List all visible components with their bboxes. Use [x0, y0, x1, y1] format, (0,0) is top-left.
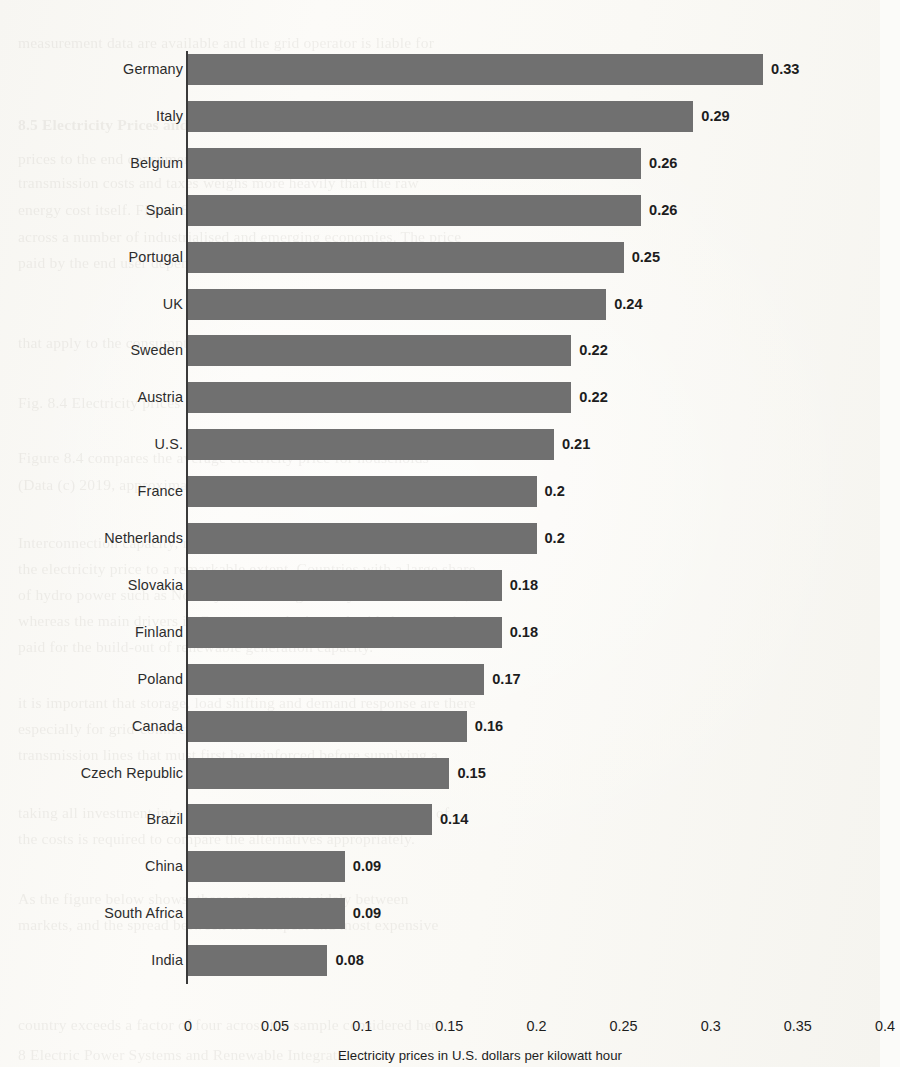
bar [188, 758, 449, 789]
category-label: South Africa [104, 898, 183, 929]
bar [188, 476, 537, 507]
bar-row: Czech Republic0.15 [40, 758, 900, 789]
x-tick-label: 0.25 [610, 1018, 638, 1034]
category-label: Italy [156, 101, 183, 132]
bar-value-label: 0.09 [353, 898, 381, 929]
category-label: Portugal [129, 242, 183, 273]
bar-row: South Africa0.09 [40, 898, 900, 929]
category-label: Netherlands [104, 523, 183, 554]
bar [188, 711, 467, 742]
y-axis-line [186, 51, 188, 984]
bar [188, 617, 502, 648]
bar-row: UK0.24 [40, 289, 900, 320]
bar-value-label: 0.16 [475, 711, 503, 742]
bar-value-label: 0.18 [510, 570, 538, 601]
bar [188, 851, 345, 882]
x-axis-title: Electricity prices in U.S. dollars per k… [40, 1048, 900, 1063]
category-label: U.S. [155, 429, 183, 460]
bar-value-label: 0.18 [510, 617, 538, 648]
x-tick-label: 0.4 [875, 1018, 895, 1034]
electricity-price-bar-chart: Germany0.33Italy0.29Belgium0.26Spain0.26… [40, 16, 840, 1051]
bar-row: Sweden0.22 [40, 335, 900, 366]
bar [188, 289, 606, 320]
bar-row: China0.09 [40, 851, 900, 882]
bar [188, 523, 537, 554]
category-label: Germany [123, 54, 183, 85]
bar-row: Austria0.22 [40, 382, 900, 413]
bar-value-label: 0.29 [701, 101, 729, 132]
bar-row: Poland0.17 [40, 664, 900, 695]
bar [188, 382, 571, 413]
category-label: France [138, 476, 183, 507]
bar-value-label: 0.15 [457, 758, 485, 789]
bar [188, 664, 484, 695]
category-label: Slovakia [128, 570, 183, 601]
bar-value-label: 0.33 [771, 54, 799, 85]
bar-value-label: 0.21 [562, 429, 590, 460]
bar-value-label: 0.24 [614, 289, 642, 320]
x-tick-label: 0.05 [261, 1018, 289, 1034]
bar [188, 195, 641, 226]
bar-row: Belgium0.26 [40, 148, 900, 179]
bar [188, 54, 763, 85]
bar-row: Portugal0.25 [40, 242, 900, 273]
category-label: Austria [138, 382, 184, 413]
category-label: China [145, 851, 183, 882]
bar-value-label: 0.26 [649, 195, 677, 226]
bar-value-label: 0.22 [579, 335, 607, 366]
bar [188, 898, 345, 929]
bar-value-label: 0.22 [579, 382, 607, 413]
x-tick-label: 0.1 [352, 1018, 372, 1034]
bar-row: Italy0.29 [40, 101, 900, 132]
bar [188, 335, 571, 366]
category-label: Finland [135, 617, 183, 648]
bar [188, 101, 693, 132]
category-label: UK [163, 289, 183, 320]
bar-row: Canada0.16 [40, 711, 900, 742]
bar-value-label: 0.14 [440, 804, 468, 835]
bar [188, 148, 641, 179]
plot-area: Germany0.33Italy0.29Belgium0.26Spain0.26… [40, 16, 900, 1067]
bar-value-label: 0.08 [335, 945, 363, 976]
category-label: Belgium [130, 148, 183, 179]
bar-row: Spain0.26 [40, 195, 900, 226]
x-tick-label: 0.3 [701, 1018, 721, 1034]
category-label: Spain [146, 195, 183, 226]
bar-value-label: 0.17 [492, 664, 520, 695]
bar-row: Brazil0.14 [40, 804, 900, 835]
bar-value-label: 0.25 [632, 242, 660, 273]
x-tick-label: 0.2 [526, 1018, 546, 1034]
bar-value-label: 0.2 [545, 476, 565, 507]
bar [188, 429, 554, 460]
bar-row: France0.2 [40, 476, 900, 507]
x-tick-label: 0.35 [784, 1018, 812, 1034]
bar-value-label: 0.26 [649, 148, 677, 179]
category-label: Czech Republic [81, 758, 183, 789]
category-label: Canada [132, 711, 183, 742]
bar-row: Germany0.33 [40, 54, 900, 85]
bar [188, 242, 624, 273]
bar-value-label: 0.09 [353, 851, 381, 882]
category-label: Brazil [146, 804, 183, 835]
bar-row: Slovakia0.18 [40, 570, 900, 601]
bar [188, 804, 432, 835]
bar-row: India0.08 [40, 945, 900, 976]
bar-row: Finland0.18 [40, 617, 900, 648]
category-label: India [151, 945, 183, 976]
bar [188, 945, 327, 976]
x-tick-label: 0.15 [435, 1018, 463, 1034]
bar-row: U.S.0.21 [40, 429, 900, 460]
bar-row: Netherlands0.2 [40, 523, 900, 554]
x-tick-label: 0 [184, 1018, 192, 1034]
category-label: Sweden [130, 335, 183, 366]
category-label: Poland [138, 664, 183, 695]
bar [188, 570, 502, 601]
bar-value-label: 0.2 [545, 523, 565, 554]
